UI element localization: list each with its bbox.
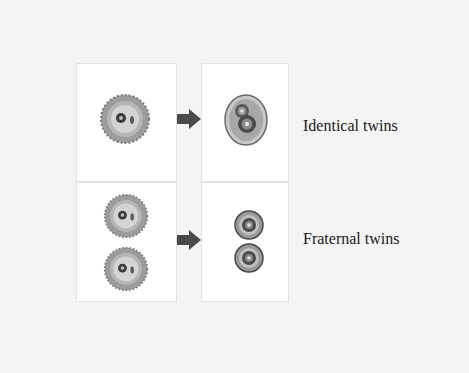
right-arrow-icon: [177, 230, 201, 250]
egg-cell-icon: [99, 93, 151, 145]
egg-cell-icon: [103, 246, 149, 292]
fraternal-twin-embryo-icon: [234, 210, 264, 240]
egg-cell-icon: [103, 193, 149, 239]
fraternal-twin-embryo-icon: [234, 243, 264, 273]
identical-twin-embryos-icon: [223, 93, 269, 147]
right-arrow-icon: [177, 109, 201, 129]
result-panel-fraternal: [201, 182, 289, 302]
row-label-fraternal: Fraternal twins: [303, 230, 399, 248]
row-label-identical: Identical twins: [303, 117, 398, 135]
